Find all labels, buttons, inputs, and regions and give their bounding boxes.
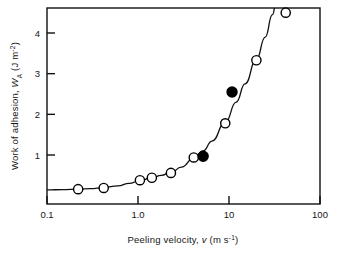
data-point-open [99, 183, 108, 192]
data-point-open [135, 176, 144, 185]
x-axis-title: Peeling velocity, v (m s-1) [128, 234, 239, 246]
y-axis-title: Work of adhesion, WA (J m-2) [9, 42, 23, 170]
data-point-open [166, 168, 175, 177]
chart-svg: 1234 0.11.010100 Peeling velocity, v (m … [0, 0, 337, 255]
open-circle-markers [74, 8, 291, 194]
axes-frame [47, 8, 320, 204]
data-point-open [74, 185, 83, 194]
figure-container: 1234 0.11.010100 Peeling velocity, v (m … [0, 0, 337, 255]
data-point-open [221, 119, 230, 128]
y-tick-label: 3 [35, 68, 40, 79]
data-point-open [281, 8, 290, 17]
data-point-open [252, 56, 261, 65]
x-tick-label: 0.1 [40, 209, 53, 220]
x-tick-label: 10 [224, 209, 235, 220]
y-tick-label: 2 [35, 109, 40, 120]
x-tick-label: 1.0 [131, 209, 144, 220]
y-axis-ticks [47, 33, 55, 155]
y-tick-label: 1 [35, 150, 40, 161]
y-axis-tick-labels: 1234 [35, 28, 40, 161]
data-point-filled [198, 151, 208, 161]
y-tick-label: 4 [35, 28, 40, 39]
data-point-open [147, 173, 156, 182]
fitted-curve [47, 3, 276, 190]
plot-frame [47, 8, 320, 204]
x-axis-tick-labels: 0.11.010100 [40, 209, 328, 220]
data-point-open [189, 153, 198, 162]
x-tick-label: 100 [312, 209, 328, 220]
data-point-filled [227, 87, 237, 97]
x-axis-ticks [47, 196, 320, 204]
